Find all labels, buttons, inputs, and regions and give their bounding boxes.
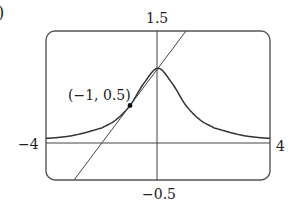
curve-line [46,68,270,138]
tangent-point-marker [128,103,133,108]
plot-area [0,0,296,214]
graph-frame [46,31,270,180]
